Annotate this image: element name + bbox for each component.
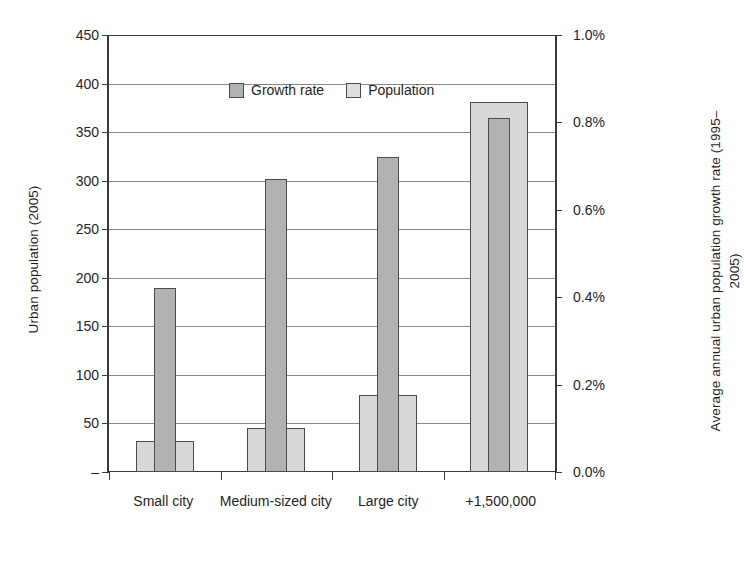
y-axis-right-ticklabel: 0.6%: [573, 202, 631, 218]
y-axis-left-ticklabels: 45040035030025020015010050–: [33, 35, 99, 472]
y-axis-right-tick: [555, 385, 562, 386]
y-axis-left-tick: [102, 229, 109, 230]
y-axis-left-tick: [102, 132, 109, 133]
y-axis-right-tick: [555, 297, 562, 298]
y-axis-right-ticklabel: 0.8%: [573, 114, 631, 130]
y-axis-right-ticklabel: 0.4%: [573, 289, 631, 305]
y-axis-left-ticklabel: 150: [39, 318, 99, 334]
y-axis-left-tick: [102, 181, 109, 182]
x-axis-ticklabel: Large city: [332, 492, 445, 542]
legend-item: Population: [346, 82, 434, 98]
y-axis-left-ticklabel: 350: [39, 124, 99, 140]
legend-label: Population: [368, 82, 434, 98]
y-axis-left-tick: [102, 35, 109, 36]
x-axis-ticklabel: +1,500,000: [445, 492, 558, 542]
chart-legend: Growth ratePopulation: [229, 79, 434, 101]
y-axis-left-ticklabel: 250: [39, 221, 99, 237]
x-axis-ticklabel: Small city: [107, 492, 220, 542]
bar-group: [444, 35, 556, 472]
population-swatch: [346, 83, 361, 98]
x-axis-tick: [109, 472, 110, 480]
y-axis-left-tick: [102, 375, 109, 376]
bar-growth-rate: [377, 157, 399, 472]
y-axis-left-ticklabel: 300: [39, 173, 99, 189]
y-axis-left-ticklabel: 450: [39, 27, 99, 43]
bar-growth-rate: [154, 288, 176, 472]
plot-area: Growth ratePopulation: [107, 35, 557, 472]
y-axis-left-ticklabel: 100: [39, 367, 99, 383]
y-axis-right-ticklabel: 1.0%: [573, 27, 631, 43]
y-axis-left-ticklabel: 400: [39, 76, 99, 92]
x-axis-ticklabels: Small cityMedium-sized cityLarge city+1,…: [107, 492, 557, 542]
y-axis-right-ticklabels: 1.0%0.8%0.6%0.4%0.2%0.0%: [573, 35, 633, 472]
y-axis-right-ticklabel: 0.0%: [573, 464, 631, 480]
y-axis-left-tick: [102, 84, 109, 85]
y-axis-left-ticklabel: 200: [39, 270, 99, 286]
legend-item: Growth rate: [229, 82, 324, 98]
y-axis-right-title: Average annual urban population growth r…: [706, 106, 744, 436]
x-axis-tick: [332, 472, 333, 480]
y-axis-left-tick: [102, 278, 109, 279]
y-axis-right-tick: [555, 122, 562, 123]
bar-growth-rate: [488, 118, 510, 472]
bar-group: [109, 35, 221, 472]
bar-growth-rate: [265, 179, 287, 472]
y-axis-right-tick: [555, 35, 562, 36]
y-axis-left-tick: [102, 326, 109, 327]
y-axis-left-tick: [102, 423, 109, 424]
y-axis-right-ticklabel: 0.2%: [573, 377, 631, 393]
legend-label: Growth rate: [251, 82, 324, 98]
y-axis-left-tick: [102, 472, 109, 473]
x-axis-tick: [221, 472, 222, 480]
y-axis-right-tick: [555, 210, 562, 211]
y-axis-left-ticklabel: –: [39, 464, 99, 480]
growth-swatch: [229, 83, 244, 98]
x-axis-tick: [555, 472, 556, 480]
y-axis-right-tick: [555, 472, 562, 473]
x-axis-ticklabel: Medium-sized city: [220, 492, 333, 542]
y-axis-left-ticklabel: 50: [39, 415, 99, 431]
x-axis-tick: [444, 472, 445, 480]
